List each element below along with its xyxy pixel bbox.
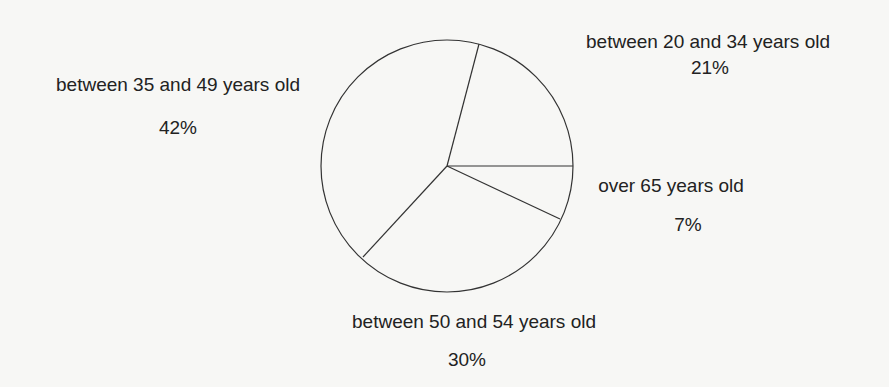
slice-divider-top xyxy=(447,44,479,166)
slice-label-35-49: between 35 and 49 years old xyxy=(56,75,300,94)
slice-divider-lower-left xyxy=(363,166,447,257)
slice-label-over-65: over 65 years old xyxy=(598,176,744,195)
slice-label-20-34: between 20 and 34 years old xyxy=(586,32,830,51)
slice-pct-35-49: 42% xyxy=(159,118,197,137)
slice-divider-lower-right xyxy=(447,166,560,219)
slice-pct-over-65: 7% xyxy=(674,215,701,234)
slice-pct-20-34: 21% xyxy=(691,58,729,77)
slice-pct-50-54: 30% xyxy=(448,350,486,369)
slice-label-50-54: between 50 and 54 years old xyxy=(352,312,596,331)
